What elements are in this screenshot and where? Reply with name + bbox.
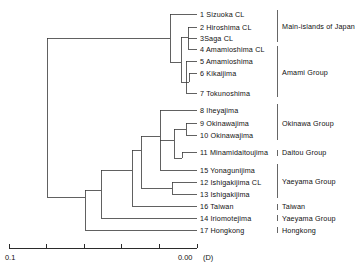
taxon-label-11: 11 Minamidaitoujima bbox=[200, 148, 268, 157]
taxon-label-14: 14 Iriomotejima bbox=[200, 214, 251, 223]
taxon-label-13: 13 Ishigakijima bbox=[200, 190, 250, 199]
taxon-label-7: 7 Tokunoshima bbox=[200, 89, 250, 98]
scale-axis bbox=[9, 244, 197, 248]
taxon-label-9: 9 Okinawajima bbox=[200, 119, 249, 128]
taxon-label-3: 3Saga CL bbox=[200, 34, 233, 43]
taxon-label-8: 8 Iheyajima bbox=[200, 106, 238, 115]
group-label-hongkong: Hongkong bbox=[282, 226, 316, 235]
phylogenetic-tree-figure: 1 Sizuoka CL 2 Hiroshima CL 3Saga CL 4 A… bbox=[0, 0, 362, 271]
axis-label-right: 0.00 bbox=[178, 253, 192, 262]
axis-unit-label: (D) bbox=[203, 253, 213, 262]
group-label-main-islands-of-japan: Main-islands of Japan bbox=[282, 22, 355, 31]
group-label-amami-group: Amami Group bbox=[282, 68, 328, 77]
group-label-yaeyama-group: Yaeyama Group bbox=[282, 177, 336, 186]
group-label-taiwan: Taiwan bbox=[282, 202, 305, 211]
taxon-label-6: 6 Kikaijima bbox=[200, 69, 236, 78]
group-label-daitou-group: Daitou Group bbox=[282, 148, 326, 157]
taxon-label-10: 10 Okinawajima bbox=[200, 131, 253, 140]
taxon-label-4: 4 Amamioshima CL bbox=[200, 45, 265, 54]
taxon-label-17: 17 Hongkong bbox=[200, 226, 244, 235]
group-label-yaeyama-group-2: Yaeyama Group bbox=[282, 214, 336, 223]
taxon-label-2: 2 Hiroshima CL bbox=[200, 23, 252, 32]
axis-label-left: 0.1 bbox=[5, 253, 15, 262]
taxon-label-15: 15 Yonagunijima bbox=[200, 166, 255, 175]
taxon-label-16: 16 Taiwan bbox=[200, 202, 234, 211]
taxon-label-12: 12 Ishigakijima CL bbox=[200, 178, 261, 187]
taxon-label-1: 1 Sizuoka CL bbox=[200, 10, 244, 19]
group-label-okinawa-group: Okinawa Group bbox=[282, 119, 334, 128]
taxon-label-5: 5 Amamioshima bbox=[200, 57, 253, 66]
